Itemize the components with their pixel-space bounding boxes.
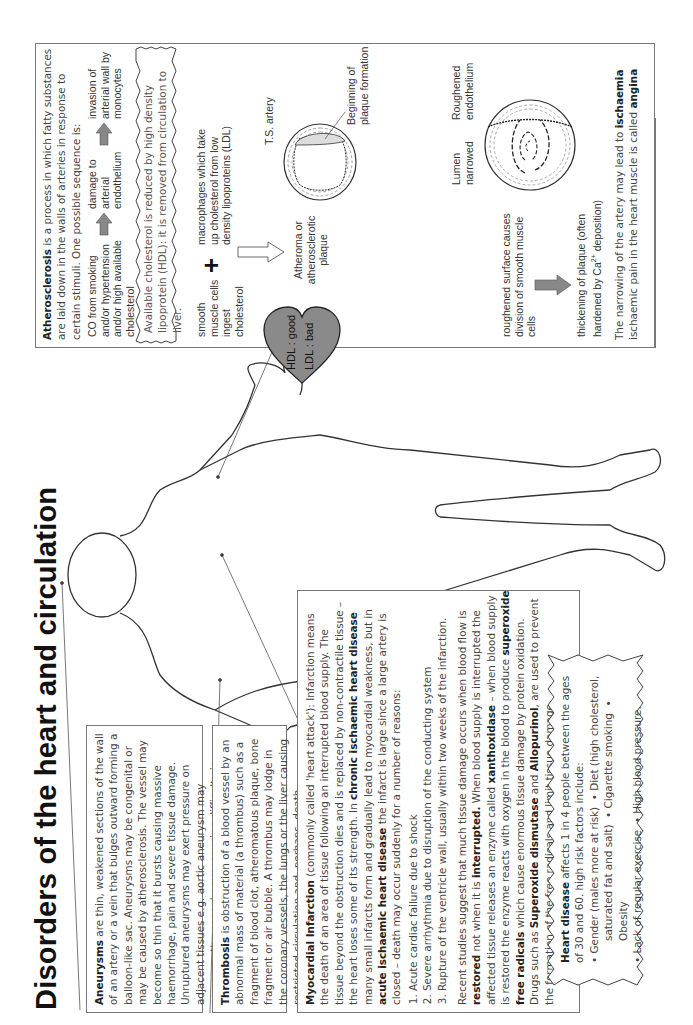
ldl-label: LDL : bad [303, 323, 316, 370]
mi-bold: interrupted. [470, 807, 482, 878]
risk-factor: • Gender (males more at risk) [588, 807, 600, 963]
arrow-right-icon [96, 213, 112, 235]
risk-line-3: • Lack of regular exercise • High blood … [630, 663, 644, 963]
mi-paragraph-1: Myocardial Infarction (commonly called '… [303, 598, 404, 1005]
risk-factor: • Lack of regular exercise [631, 830, 643, 963]
mi-bold: restored [470, 955, 482, 1005]
mi-bold: Allopurinol [528, 707, 540, 771]
roughened-surface-label: roughened surface causes division of smo… [500, 197, 538, 337]
narrowing-text: ischaemic pain in the heart muscle is ca… [627, 109, 639, 340]
heart-disease-intro: Heart disease affects 1 in 4 people betw… [558, 663, 587, 963]
risk-line-2: saturated fat and salt) • Cigarette smok… [601, 663, 630, 963]
plus-icon: + [196, 258, 227, 273]
mi-reasons-list: Acute cardiac failure due to shock Sever… [406, 598, 449, 1005]
atherosclerosis-term: Atherosclerosis [41, 249, 53, 340]
risk-factor: • High blood pressure. [631, 706, 643, 823]
hdl-note: Available cholesterol is reduced by high… [141, 53, 184, 333]
mi-bold: xanthoxidase [485, 705, 497, 784]
smooth-muscle-label: smooth muscle cells ingest cholesterol [195, 275, 245, 337]
hdl-label: HDL : good [285, 315, 298, 370]
lumen-narrowed-label: Lumen narrowed [450, 125, 475, 185]
list-item: Acute cardiac failure due to shock [406, 598, 420, 991]
mi-paragraph-2: Recent studies suggest that much tissue … [455, 590, 556, 1005]
narrowing-line-2: ischaemic pain in the heart muscle is ca… [626, 10, 640, 340]
thickening-text: deposition) [590, 200, 602, 254]
mi-bold: chronic ischaemic heart disease [347, 612, 359, 800]
page: Disorders of the heart and circulation [0, 0, 693, 1025]
mi-bold: Superoxide dismutase [528, 798, 540, 929]
narrowing-line-1: The narrowing of the artery may lead to … [612, 10, 626, 340]
atherosclerosis-intro: Atherosclerosis is a process in which fa… [40, 48, 83, 340]
beginning-plaque-label: Beginning of plaque formation [345, 45, 370, 125]
roughened-endothelium-label: Roughened endothelium [450, 48, 475, 120]
risk-factor: saturated fat and salt) [602, 825, 614, 942]
mi-text: many small infarcts form and gradually l… [362, 609, 374, 1005]
arrow-down-icon [535, 275, 571, 295]
arrow-right-icon [96, 123, 112, 145]
narrowing-note: The narrowing of the artery may lead to … [612, 10, 641, 340]
narrowed-artery-diagram-icon [480, 85, 580, 195]
risk-line-1: • Gender (males more at risk) • Diet (hi… [587, 663, 601, 963]
seq-step-2: damage to arterial endothelium [86, 147, 124, 209]
list-item: Rupture of the ventricle wall, usually w… [435, 598, 449, 991]
mi-term: Myocardial Infarction [304, 880, 316, 1005]
thickening-label: thickening of plaque (often hardened by … [575, 197, 603, 337]
narrowing-note-separator [655, 118, 656, 348]
atheroma-label: Atheroma or atherosclerotic plaque [292, 215, 330, 285]
aneurysms-box: Aneurysms are thin, weakened sections of… [86, 725, 203, 1013]
heart-icon [262, 305, 342, 385]
mi-bold: acute ischaemic heart disease [376, 828, 388, 1005]
thrombosis-term: Thrombosis [219, 937, 231, 1005]
heart-disease-box: Heart disease affects 1 in 4 people betw… [558, 663, 633, 963]
seq-step-1: CO from smoking and/or hypertension and/… [86, 237, 136, 337]
mi-text: not when it is [470, 878, 482, 955]
risk-factor: • Cigarette smoking [602, 713, 614, 818]
seq-step-3: invasion of arterial wall by monocytes [86, 47, 124, 119]
ts-artery-label: T.S. artery [263, 97, 276, 145]
mi-text: and [528, 771, 540, 797]
aneurysms-term: Aneurysms [93, 940, 105, 1005]
narrowing-bold: angina [627, 69, 639, 109]
superscript: 2+ [590, 254, 597, 262]
mi-box: Myocardial Infarction (commonly called '… [297, 590, 580, 1013]
macrophages-label: macrophages which take up cholesterol fr… [195, 125, 233, 245]
heart-disease-term: Heart disease [559, 882, 571, 963]
open-arrow-down-icon [238, 242, 284, 262]
list-item: Severe arrhythmia due to disruption of t… [420, 598, 434, 991]
narrowing-bold: ischaemia [613, 70, 625, 129]
narrowing-text: The narrowing of the artery may lead to [613, 128, 625, 340]
risk-factor: • Diet (high cholesterol, [588, 676, 600, 801]
thrombosis-box: Thrombosis is obstruction of a blood ves… [212, 725, 287, 1013]
mi-text: Recent studies suggest that much tissue … [456, 610, 468, 1005]
